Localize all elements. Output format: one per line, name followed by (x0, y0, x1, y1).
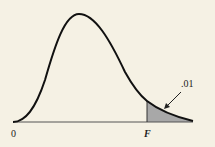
f-distribution-figure: 0 F .01 (0, 0, 215, 147)
critical-value-label: F (144, 128, 151, 139)
f-distribution-plot (0, 0, 215, 147)
origin-label: 0 (11, 128, 16, 139)
tail-area-label: .01 (181, 78, 194, 89)
annotation-arrow-line (166, 92, 181, 107)
